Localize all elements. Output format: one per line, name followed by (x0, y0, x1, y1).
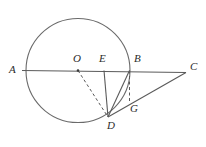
segment-ED (104, 71, 108, 118)
point-label-D: D (107, 120, 115, 131)
point-label-O: O (73, 53, 81, 64)
geometry-canvas (0, 0, 206, 147)
point-label-A: A (9, 64, 16, 75)
geometry-figure: A O E B C G D (0, 0, 206, 147)
segment-OD (78, 71, 108, 118)
point-label-B: B (134, 53, 141, 64)
point-label-E: E (99, 53, 106, 64)
point-label-G: G (130, 103, 138, 114)
segment-DC (108, 73, 186, 118)
point-label-C: C (190, 61, 197, 72)
point-marker-O (77, 69, 80, 72)
segment-BD (108, 71, 130, 118)
